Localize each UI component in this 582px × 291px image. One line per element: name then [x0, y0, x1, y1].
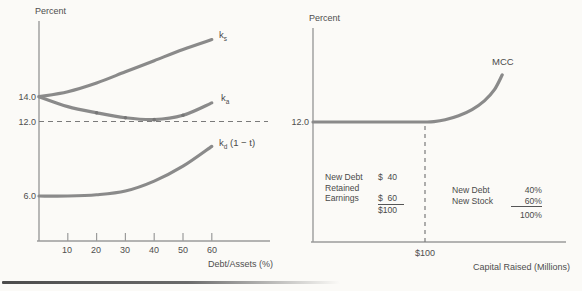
dollars-row-retained: Retained: [325, 183, 404, 194]
dollars-value-new-debt: $ 40: [378, 172, 404, 183]
dollars-label-total: [325, 205, 378, 216]
dollars-row-earnings: Earnings $ 60: [325, 193, 404, 205]
MCC-curve: [313, 75, 502, 122]
left-xtick-10: 10: [62, 245, 72, 255]
left-xtick-50: 50: [178, 245, 188, 255]
dollars-value-earnings: $ 60: [378, 193, 404, 205]
cost-of-capital-figure: Percent 14.0 12.0 6.0 10 20 30 40 50 60 …: [0, 0, 582, 291]
percent-label-new-debt: New Debt: [452, 185, 511, 196]
right-xtick-100: $100: [415, 248, 435, 258]
dollars-label-retained: Retained: [325, 183, 378, 194]
page-divider-rule: [2, 281, 340, 284]
percent-label-new-stock: New Stock: [452, 196, 511, 208]
left-ytick-12: 12.0: [12, 117, 36, 127]
chart-canvas: [0, 0, 582, 291]
dollars-value-retained: [378, 183, 404, 194]
percent-value-total: 100%: [511, 210, 542, 221]
dollars-label-new-debt: New Debt: [325, 172, 378, 183]
left-ytick-14: 14.0: [12, 92, 36, 102]
left-xtick-40: 40: [149, 245, 159, 255]
right-ytick-12: 12.0: [283, 117, 309, 127]
right-x-axis-title: Capital Raised (Millions): [440, 262, 570, 272]
dollars-row-total: $100: [325, 205, 404, 216]
kd_after_tax-curve: [39, 146, 212, 196]
ks-curve-label: ks: [219, 30, 227, 44]
financing-mix-dollars: New Debt $ 40 Retained Earnings $ 60 $10…: [325, 172, 404, 215]
left-xtick-20: 20: [91, 245, 101, 255]
dollars-row-new-debt: New Debt $ 40: [325, 172, 404, 183]
ka-data-point: [124, 116, 128, 120]
percent-value-new-debt: 40%: [511, 185, 542, 196]
left-xtick-30: 30: [120, 245, 130, 255]
percent-row-new-stock: New Stock 60%: [452, 196, 542, 208]
left-ytick-6: 6.0: [12, 191, 36, 201]
ka-data-point: [95, 111, 99, 115]
right-y-axis-title: Percent: [309, 13, 340, 23]
mcc-curve-label: MCC: [492, 57, 514, 67]
kd-curve-label: kd (1 − t): [219, 138, 255, 152]
financing-mix-percent: New Debt 40% New Stock 60% 100%: [452, 185, 542, 220]
ka-data-point: [181, 113, 185, 117]
ka-data-point: [152, 118, 156, 122]
dollars-value-total: $100: [378, 205, 404, 216]
percent-value-new-stock: 60%: [511, 196, 542, 208]
ks-curve: [39, 40, 212, 97]
left-x-axis-title: Debt/Assets (%): [180, 259, 273, 269]
left-xtick-60: 60: [207, 245, 217, 255]
dollars-label-earnings: Earnings: [325, 193, 378, 205]
percent-label-total: [452, 210, 511, 221]
percent-row-new-debt: New Debt 40%: [452, 185, 542, 196]
percent-row-total: 100%: [452, 210, 542, 221]
left-y-axis-title: Percent: [35, 6, 66, 16]
ka-curve-label: ka: [221, 93, 229, 107]
